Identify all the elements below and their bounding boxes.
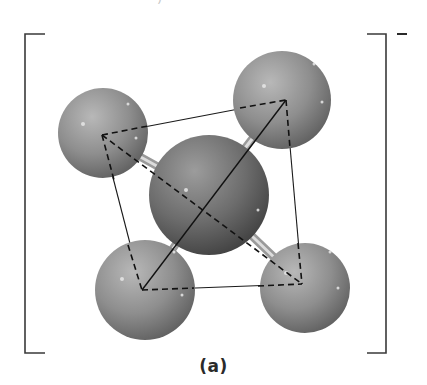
atom-top-left [58, 88, 148, 178]
tetrahedral-ion-diagram [0, 0, 427, 385]
figure-caption: (a) [0, 356, 427, 376]
left-bracket [25, 34, 45, 353]
right-bracket [367, 34, 386, 353]
central-atom [149, 135, 269, 255]
